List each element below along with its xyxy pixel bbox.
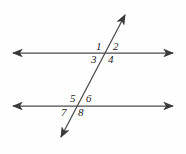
angle-label-7: 7 <box>61 107 67 118</box>
transversal-line <box>61 15 125 137</box>
geometry-canvas <box>0 0 186 154</box>
angle-label-5: 5 <box>70 93 76 104</box>
geometry-figure: 1 2 3 4 5 6 7 8 <box>0 0 186 154</box>
angle-label-6: 6 <box>86 93 92 104</box>
angle-label-2: 2 <box>113 41 119 52</box>
angle-label-8: 8 <box>78 107 84 118</box>
angle-label-4: 4 <box>108 54 114 65</box>
angle-label-1: 1 <box>96 41 102 52</box>
angle-label-3: 3 <box>91 54 97 65</box>
